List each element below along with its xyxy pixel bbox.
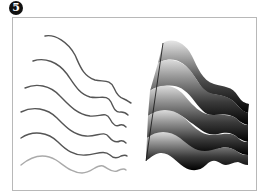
curve-6	[21, 156, 126, 173]
source-curves	[21, 36, 131, 173]
curve-5	[21, 133, 127, 158]
curve-1	[45, 36, 131, 103]
curve-3	[25, 85, 126, 127]
curve-4	[21, 109, 126, 143]
blended-bands	[146, 41, 249, 171]
illustration	[0, 0, 263, 195]
